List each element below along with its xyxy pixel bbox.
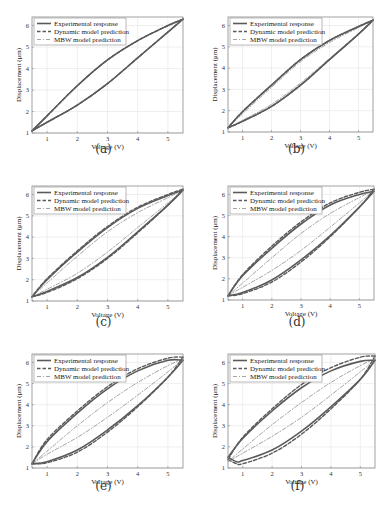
x-tick-label: 2 <box>76 135 79 142</box>
x-tick-label: 2 <box>270 134 273 141</box>
legend-entry: Dynamic model prediction <box>250 197 326 205</box>
y-tick-label: 1 <box>222 296 225 303</box>
legend-entry: Experimental response <box>250 189 314 197</box>
x-tick-label: 4 <box>136 135 140 142</box>
y-axis-label: Displacement (μm) <box>15 383 23 438</box>
panel-b: 12345123456Voltage (V)Displacement (μm)E… <box>211 17 373 156</box>
y-tick-label: 2 <box>222 443 225 450</box>
x-tick-label: 4 <box>329 302 333 309</box>
x-tick-label: 5 <box>166 135 169 142</box>
x-tick-label: 1 <box>241 134 244 141</box>
y-axis-label: Displacement (μm) <box>15 47 23 102</box>
y-tick-label: 2 <box>26 443 29 450</box>
x-tick-label: 3 <box>299 302 302 309</box>
figure-canvas: 12345123456Voltage (V)Displacement (μm)E… <box>0 0 391 512</box>
panel-caption: (a) <box>95 142 112 156</box>
x-tick-label: 2 <box>270 470 273 477</box>
legend-entry: MBW model prediction <box>250 36 317 44</box>
x-tick-label: 1 <box>45 470 48 477</box>
y-tick-label: 4 <box>222 64 226 71</box>
x-tick-label: 3 <box>299 134 302 141</box>
x-tick-label: 2 <box>76 470 79 477</box>
legend-entry: Experimental response <box>54 357 118 365</box>
y-tick-label: 3 <box>222 422 225 429</box>
y-axis-label: Displacement (μm) <box>211 215 219 270</box>
legend-entry: Dynamic model prediction <box>250 365 326 373</box>
legend: Experimental responseDynamic model predi… <box>34 355 130 382</box>
y-tick-label: 5 <box>26 43 29 50</box>
x-tick-label: 4 <box>328 134 332 141</box>
legend-entry: Dynamic model prediction <box>54 197 130 205</box>
y-tick-label: 1 <box>222 464 225 471</box>
legend-entry: Experimental response <box>250 357 314 365</box>
legend-entry: Dynamic model prediction <box>54 28 130 36</box>
y-tick-label: 5 <box>222 380 225 387</box>
y-tick-label: 6 <box>222 22 226 29</box>
panel-a: 12345123456Voltage (V)Displacement (μm)E… <box>15 17 183 156</box>
y-tick-label: 5 <box>26 380 29 387</box>
legend: Experimental responseDynamic model predi… <box>34 18 130 45</box>
x-tick-label: 1 <box>45 303 48 310</box>
y-tick-label: 2 <box>26 108 29 115</box>
legend-entry: Dynamic model prediction <box>54 365 130 373</box>
x-tick-label: 4 <box>136 303 140 310</box>
y-axis-label: Displacement (μm) <box>211 47 219 102</box>
y-axis-label: Displacement (μm) <box>15 216 23 271</box>
y-tick-label: 3 <box>222 86 225 93</box>
y-tick-label: 3 <box>26 255 29 262</box>
y-tick-label: 5 <box>222 212 225 219</box>
x-tick-label: 5 <box>357 134 360 141</box>
legend-entry: MBW model prediction <box>54 373 121 381</box>
panel-f: 12345123456Voltage (V)Displacement (μm)E… <box>211 354 375 493</box>
legend: Experimental responseDynamic model predi… <box>34 187 130 214</box>
y-tick-label: 1 <box>222 128 225 135</box>
legend-entry: MBW model prediction <box>54 36 121 44</box>
legend-entry: MBW model prediction <box>54 205 121 213</box>
x-tick-label: 2 <box>270 302 273 309</box>
panel-caption: (b) <box>288 142 305 156</box>
x-tick-label: 3 <box>106 470 109 477</box>
y-tick-label: 4 <box>26 233 30 240</box>
y-tick-label: 4 <box>26 401 30 408</box>
y-tick-label: 2 <box>222 275 225 282</box>
y-tick-label: 4 <box>222 233 226 240</box>
x-tick-label: 4 <box>329 470 333 477</box>
y-tick-label: 1 <box>26 129 29 136</box>
panel-d: 12345123456Voltage (V)Displacement (μm)E… <box>211 186 374 329</box>
legend-entry: Experimental response <box>54 20 118 28</box>
legend-entry: Experimental response <box>250 20 314 28</box>
x-tick-label: 2 <box>76 303 79 310</box>
x-tick-label: 1 <box>241 470 244 477</box>
legend-entry: MBW model prediction <box>250 373 317 381</box>
y-tick-label: 3 <box>222 254 225 261</box>
x-tick-label: 4 <box>136 470 140 477</box>
y-tick-label: 6 <box>222 359 226 366</box>
y-tick-label: 1 <box>26 464 29 471</box>
x-tick-label: 5 <box>166 470 169 477</box>
legend-entry: Experimental response <box>54 189 118 197</box>
y-tick-label: 6 <box>26 191 30 198</box>
x-tick-label: 5 <box>359 470 362 477</box>
x-tick-label: 1 <box>241 302 244 309</box>
y-tick-label: 2 <box>26 276 29 283</box>
legend: Experimental responseDynamic model predi… <box>230 187 326 214</box>
y-tick-label: 6 <box>222 191 226 198</box>
legend: Experimental responseDynamic model predi… <box>230 18 326 45</box>
y-tick-label: 5 <box>26 212 29 219</box>
x-tick-label: 1 <box>45 135 48 142</box>
x-tick-label: 5 <box>358 302 361 309</box>
y-tick-label: 2 <box>222 107 225 114</box>
y-tick-label: 1 <box>26 297 29 304</box>
panel-e: 12345123456Voltage (V)Displacement (μm)E… <box>15 354 183 493</box>
panel-caption: (f) <box>291 479 305 493</box>
y-tick-label: 5 <box>222 43 225 50</box>
y-tick-label: 4 <box>222 401 226 408</box>
legend-entry: MBW model prediction <box>250 205 317 213</box>
y-tick-label: 4 <box>26 65 30 72</box>
y-tick-label: 3 <box>26 422 29 429</box>
panel-caption: (e) <box>95 479 111 493</box>
legend: Experimental responseDynamic model predi… <box>230 355 326 382</box>
y-tick-label: 6 <box>26 22 30 29</box>
panel-caption: (d) <box>288 315 305 329</box>
x-tick-label: 3 <box>106 135 109 142</box>
